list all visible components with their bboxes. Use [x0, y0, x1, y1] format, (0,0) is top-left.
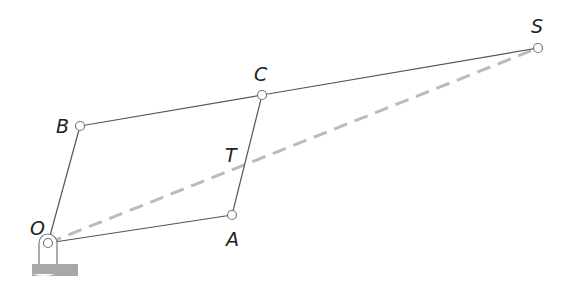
link-bc: [80, 95, 262, 126]
link-cs: [262, 48, 538, 95]
joint-a: [228, 211, 237, 220]
link-oa: [48, 215, 232, 243]
joint-s: [534, 44, 543, 53]
joint-o: [44, 239, 53, 248]
label-a: A: [226, 230, 239, 249]
fixed-pivot-icon: [32, 234, 78, 276]
label-o: O: [30, 219, 45, 238]
dashed-line-os: [48, 48, 538, 243]
joint-c: [258, 91, 267, 100]
label-t: T: [225, 146, 237, 165]
label-s: S: [531, 17, 543, 36]
label-b: B: [56, 117, 69, 136]
linkage-diagram: [0, 0, 571, 283]
label-c: C: [254, 65, 267, 84]
joint-b: [76, 122, 85, 131]
link-ob: [48, 126, 80, 243]
